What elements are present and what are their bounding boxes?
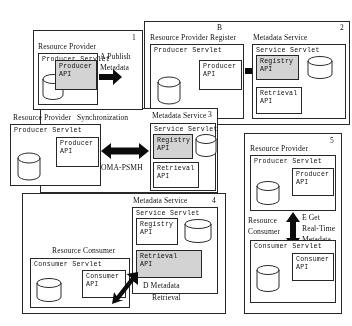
- panel-1-producer-api-line1: Producer: [59, 63, 96, 71]
- panel-5-actor-consumer-line2: Consumer: [248, 227, 280, 236]
- panel-3-registry-api-line1: Registry: [157, 137, 192, 145]
- panel-1-actor-resource-provider: Resource Provider: [38, 42, 96, 51]
- panel-4-retrieval-api: Retrieval API: [136, 250, 202, 278]
- panel-1-action: Publish: [107, 52, 131, 61]
- panel-5-consumer-servlet-label: Consumer Servlet: [254, 243, 322, 251]
- panel-4-consumer-servlet-label: Consumer Servlet: [34, 261, 102, 269]
- diagram-canvas: B 2 Resource Provider Register Metadata …: [0, 0, 352, 326]
- panel-2-producer-api: Producer API: [199, 60, 242, 90]
- panel-3-producer-database-icon: [16, 152, 42, 182]
- panel-3-protocol-label: OMA-PSMH: [101, 163, 143, 172]
- panel-5-consumer-api: Consumer API: [292, 253, 334, 281]
- panel-5-producer-database-icon: [255, 181, 281, 207]
- panel-2-registry-api-line1: Registry: [260, 58, 298, 66]
- panel-2-actor-metadata-service: Metadata Service: [253, 33, 308, 42]
- panel-2-producer-database-icon: [156, 76, 182, 106]
- panel-4-action-line1: D Metadata: [143, 281, 180, 290]
- panel-5-actor-consumer-line1: Resource: [248, 216, 277, 225]
- panel-3-service-servlet-label: Service Servlet: [154, 126, 218, 134]
- panel-2-retrieval-api-line1: Retrieval: [260, 90, 301, 98]
- panel-4-action-line2: Retrieval: [152, 293, 181, 302]
- panel-2-producer-api-line2: API: [203, 71, 241, 79]
- panel-2-retrieval-api-line2: API: [260, 98, 301, 106]
- panel-3-service-database-icon: [194, 134, 218, 158]
- panel-4-service-servlet-label: Service Servlet: [136, 210, 200, 218]
- panel-4-action: Metadata: [151, 281, 180, 290]
- panel-4-number: 4: [212, 196, 216, 205]
- panel-5-actor-resource-provider: Resource Provider: [250, 144, 308, 153]
- panel-5-number: 5: [330, 136, 334, 145]
- panel-4-consumer-database-icon: [35, 278, 63, 305]
- panel-2-producer-api-line1: Producer: [203, 63, 241, 71]
- panel-5-action-line1: E Get: [302, 213, 320, 222]
- panel-3-producer-servlet-label: Producer Servlet: [14, 127, 82, 135]
- panel-5-consumer-api-line2: API: [296, 264, 333, 272]
- panel-5-action-line2: Real-Time: [302, 224, 335, 233]
- panel-2-retrieval-api: Retrieval API: [256, 87, 302, 114]
- panel-1-number: 1: [132, 33, 136, 42]
- panel-4-registry-api-line1: Registry: [140, 221, 177, 229]
- panel-1-producer-api: Producer API: [55, 60, 97, 90]
- panel-3-retrieval-api: Retrieval API: [153, 162, 199, 188]
- panel-3-actor-resource-provider: Resource Provider: [13, 113, 71, 122]
- panel-3-producer-api-line1: Producer: [60, 140, 98, 148]
- panel-3-actor-metadata-service: Metadata Service: [152, 111, 207, 120]
- panel-1-arrow-right-icon: [99, 69, 123, 85]
- panel-4-service-database-icon: [183, 219, 213, 245]
- panel-4-actor-metadata-service: Metadata Service: [133, 196, 188, 205]
- panel-3-action-synchronization: Synchronization: [77, 113, 128, 122]
- panel-2-service-servlet-label: Service Servlet: [256, 47, 320, 55]
- panel-1-producer-api-line2: API: [59, 71, 96, 79]
- panel-2-actor-provider-register: Resource Provider Register: [150, 33, 236, 42]
- panel-5-producer-api: Producer API: [292, 168, 334, 196]
- panel-2-registry-api-line2: API: [260, 66, 298, 74]
- panel-5-producer-api-line2: API: [296, 179, 333, 187]
- panel-4-registry-api-line2: API: [140, 229, 177, 237]
- panel-5-action: Get: [309, 213, 320, 222]
- panel-5-producer-servlet-label: Producer Servlet: [254, 158, 322, 166]
- panel-4-retrieval-api-line1: Retrieval: [140, 253, 201, 261]
- panel-4-arrow-bidirectional-diagonal-icon: [112, 272, 140, 304]
- panel-2-number: 2: [340, 23, 344, 32]
- panel-4-letter: D: [143, 281, 149, 290]
- panel-4-registry-api: Registry API: [136, 218, 178, 245]
- panel-2-letter: B: [217, 23, 222, 32]
- panel-2-service-database-icon: [306, 56, 334, 80]
- panel-3-producer-api-line2: API: [60, 148, 98, 156]
- panel-4-retrieval-api-line2: API: [140, 261, 201, 269]
- panel-3-registry-api-line2: API: [157, 145, 192, 153]
- panel-3-producer-api: Producer API: [56, 137, 99, 167]
- panel-5-consumer-api-line1: Consumer: [296, 256, 333, 264]
- panel-3-retrieval-api-line2: API: [157, 173, 198, 181]
- panel-2-registry-api: Registry API: [256, 55, 299, 80]
- panel-3-arrow-bidirectional-icon: [101, 142, 149, 160]
- panel-3-registry-api: Registry API: [153, 134, 193, 159]
- panel-4-actor-resource-consumer: Resource Consumer: [52, 246, 115, 255]
- panel-5-producer-api-line1: Producer: [296, 171, 333, 179]
- panel-2-producer-servlet-label: Producer Servlet: [154, 47, 222, 55]
- panel-3-number: 3: [208, 110, 212, 119]
- panel-3-retrieval-api-line1: Retrieval: [157, 165, 198, 173]
- panel-5-letter: E: [302, 213, 307, 222]
- panel-5-consumer-database-icon: [255, 265, 281, 295]
